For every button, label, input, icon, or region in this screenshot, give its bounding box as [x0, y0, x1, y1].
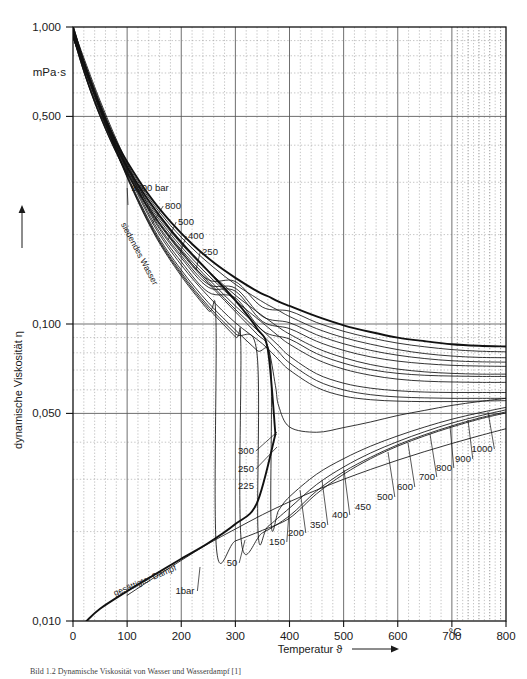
- curve-label-800: 800: [436, 462, 452, 473]
- x-tick-label: 100: [118, 630, 137, 642]
- curve-label-200: 200: [288, 527, 304, 538]
- x-tick-label: 600: [388, 630, 407, 642]
- curve-label-500: 500: [178, 216, 194, 227]
- curve-label-250: 250: [202, 246, 218, 257]
- curve-label-400: 400: [332, 509, 348, 520]
- y-axis-title: dynamische Viskosität η: [12, 331, 24, 449]
- y-tick-label: 0,500: [32, 110, 61, 122]
- viscosity-chart: 0100200300400500600700800 1,0000,5000,10…: [0, 0, 527, 679]
- curve-label-225: 225: [238, 480, 254, 491]
- curve-label-300: 300: [238, 445, 254, 456]
- y-tick-label: 0,100: [32, 318, 61, 330]
- y-axis-unit-label: mPa·s: [33, 66, 66, 78]
- x-axis-unit-label: °C: [449, 626, 462, 638]
- x-tick-label: 0: [70, 630, 76, 642]
- curve-label-1000: 1000: [471, 443, 492, 454]
- curve-label-800: 800: [165, 200, 181, 211]
- y-tick-label: 0,010: [32, 615, 61, 627]
- curve-label-400: 400: [188, 230, 204, 241]
- x-axis-title: Temperatur ϑ: [278, 643, 343, 655]
- curve-label-450: 450: [355, 501, 371, 512]
- curve-label-900: 900: [455, 453, 471, 464]
- curve-label-500: 500: [377, 491, 393, 502]
- figure-container: 0100200300400500600700800 1,0000,5000,10…: [0, 0, 527, 679]
- curve-label-700: 700: [419, 471, 435, 482]
- y-tick-label: 1,000: [32, 21, 61, 33]
- curve-label-250: 250: [238, 463, 254, 474]
- x-tick-label: 800: [496, 630, 515, 642]
- curve-label-1000-bar: 1000 bar: [131, 182, 169, 193]
- figure-caption: Bild 1.2 Dynamische Viskosität von Wasse…: [30, 667, 241, 676]
- y-tick-label: 0,050: [32, 407, 61, 419]
- x-tick-label: 400: [280, 630, 299, 642]
- curve-label-150: 150: [269, 536, 285, 547]
- x-tick-label: 500: [334, 630, 353, 642]
- x-tick-label: 200: [172, 630, 191, 642]
- curve-label-1bar: 1bar: [175, 585, 194, 596]
- curve-label-350: 350: [310, 519, 326, 530]
- curve-label-600: 600: [397, 481, 413, 492]
- curve-label-50: 50: [227, 557, 238, 568]
- x-tick-label: 300: [226, 630, 245, 642]
